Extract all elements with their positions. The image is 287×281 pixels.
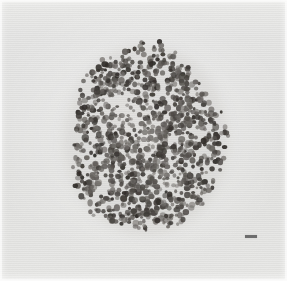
micrograph-figure: Micrograph of a cell colony Densely pack… bbox=[0, 0, 287, 281]
plate-illumination-overlay bbox=[0, 0, 287, 281]
scale-bar bbox=[245, 235, 257, 238]
scanline-texture-overlay bbox=[0, 0, 287, 281]
paper-grain-overlay bbox=[0, 0, 287, 281]
cell-colony bbox=[0, 0, 287, 281]
micrograph-plate bbox=[0, 0, 287, 281]
plate-margin-overlay bbox=[0, 0, 287, 281]
